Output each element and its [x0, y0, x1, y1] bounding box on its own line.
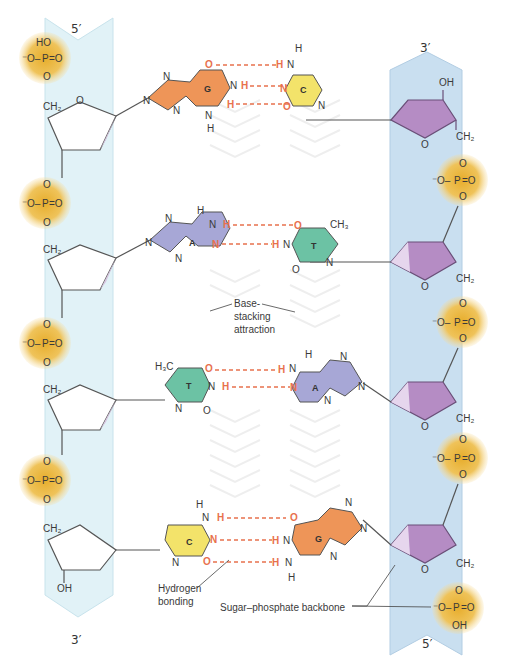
svg-text:H: H: [196, 499, 203, 510]
base-stacking-ghost-lines: [210, 100, 340, 497]
svg-text:H: H: [227, 99, 234, 110]
svg-text:N: N: [324, 395, 331, 406]
svg-text:A: A: [312, 383, 319, 393]
svg-text:N: N: [175, 403, 182, 414]
svg-text:N: N: [208, 381, 215, 392]
base-pair-c-g-4: C HN HN NO G O HN HNH NNN: [165, 497, 367, 583]
left-phosphate-1: HO ⁻O–P=O O: [19, 32, 71, 84]
svg-text:=O: =O: [461, 602, 475, 613]
svg-text:H: H: [272, 239, 279, 250]
svg-text:N: N: [175, 253, 182, 264]
svg-text:bonding: bonding: [158, 596, 194, 607]
svg-text:Base-: Base-: [234, 298, 260, 309]
svg-text:O: O: [76, 95, 84, 106]
svg-text:CH₂: CH₂: [456, 131, 474, 142]
svg-text:=O: =O: [49, 198, 63, 209]
dna-structure-diagram: 5′ 3′ 3′ 5′ HO ⁻O–P=O O O ⁻O–P=O O O ⁻O–…: [0, 0, 507, 667]
svg-text:N: N: [283, 535, 290, 546]
base-pair-g-c-1: G NNN NH ON HH C HNH NO N: [143, 43, 325, 134]
svg-text:O: O: [459, 333, 467, 344]
svg-text:O: O: [421, 564, 429, 575]
svg-text:O: O: [421, 421, 429, 432]
svg-text:N: N: [143, 95, 150, 106]
svg-text:=O: =O: [462, 175, 476, 186]
svg-text:N: N: [360, 523, 367, 534]
svg-text:N: N: [285, 557, 292, 568]
left-phosphate-2: O ⁻O–P=O O: [19, 177, 71, 229]
left-3prime-oh: OH: [57, 583, 72, 594]
svg-text:O: O: [283, 101, 291, 112]
svg-text:O: O: [205, 59, 213, 70]
svg-text:T: T: [186, 381, 192, 391]
svg-text:O: O: [294, 220, 302, 231]
svg-text:N: N: [205, 110, 212, 121]
svg-text:O: O: [43, 357, 51, 368]
svg-text:Sugar–phosphate backbone: Sugar–phosphate backbone: [220, 602, 346, 613]
svg-text:N: N: [210, 534, 217, 545]
left-phosphate-4: O ⁻O–P=O O: [19, 454, 71, 506]
svg-text:N: N: [209, 219, 216, 230]
svg-text:H: H: [272, 535, 279, 546]
svg-text:O: O: [459, 434, 467, 445]
svg-text:P: P: [453, 602, 460, 613]
svg-text:O: O: [203, 405, 211, 416]
svg-text:⁻O–: ⁻O–: [22, 53, 41, 64]
svg-text:⁻O–: ⁻O–: [432, 317, 451, 328]
svg-text:C: C: [186, 537, 193, 547]
svg-text:N: N: [163, 71, 170, 82]
svg-text:N: N: [345, 497, 352, 508]
svg-text:=O: =O: [49, 475, 63, 486]
svg-text:=O: =O: [462, 317, 476, 328]
base-pair-t-a-3: T H₃C ON HNO A HNH NN NN: [155, 349, 365, 416]
svg-text:H: H: [288, 572, 295, 583]
svg-text:O: O: [292, 264, 300, 275]
svg-text:stacking: stacking: [234, 311, 271, 322]
right-3prime-label: 3′: [420, 41, 431, 55]
svg-text:H: H: [276, 59, 283, 70]
svg-text:OH: OH: [452, 620, 467, 631]
svg-text:N: N: [280, 83, 287, 94]
svg-text:H: H: [222, 381, 229, 392]
svg-text:H: H: [272, 557, 279, 568]
hydrogen-bonding-annotation: Hydrogen bonding: [158, 560, 229, 607]
svg-text:⁻O–: ⁻O–: [432, 175, 451, 186]
svg-text:CH₂: CH₂: [43, 523, 61, 534]
base-pair-a-t-2: A NNN HN HN T OCH₃ HN ON: [145, 205, 349, 275]
svg-text:N: N: [289, 363, 296, 374]
svg-text:H: H: [295, 43, 302, 54]
svg-text:G: G: [204, 84, 211, 94]
svg-text:N: N: [230, 80, 237, 91]
svg-text:P: P: [42, 53, 49, 64]
svg-text:O: O: [459, 469, 467, 480]
svg-text:HO: HO: [36, 37, 51, 48]
svg-text:P: P: [454, 453, 461, 464]
svg-text:OH: OH: [439, 77, 454, 88]
svg-text:H: H: [197, 205, 204, 216]
svg-text:N: N: [326, 257, 333, 268]
svg-text:H: H: [217, 512, 224, 523]
svg-text:O: O: [459, 298, 467, 309]
svg-text:N: N: [340, 351, 347, 362]
svg-text:CH₂: CH₂: [456, 413, 474, 424]
svg-text:CH₂: CH₂: [456, 558, 474, 569]
svg-text:O: O: [203, 556, 211, 567]
svg-text:O: O: [459, 191, 467, 202]
svg-text:⁻O–: ⁻O–: [22, 198, 41, 209]
svg-text:N: N: [202, 512, 209, 523]
svg-text:=O: =O: [49, 53, 63, 64]
svg-text:⁻O–: ⁻O–: [22, 338, 41, 349]
svg-text:=O: =O: [462, 453, 476, 464]
right-phosphate-4: O ⁻O–P=O OH: [432, 582, 484, 634]
svg-text:O: O: [43, 319, 51, 330]
svg-text:⁻O–: ⁻O–: [22, 475, 41, 486]
svg-text:H: H: [278, 364, 285, 375]
svg-text:CH₃: CH₃: [330, 219, 349, 230]
svg-text:O: O: [455, 585, 463, 596]
svg-text:N: N: [358, 381, 365, 392]
svg-text:=O: =O: [49, 338, 63, 349]
svg-text:O: O: [43, 71, 51, 82]
svg-text:O: O: [421, 139, 429, 150]
svg-text:A: A: [189, 238, 196, 248]
base-stacking-annotation: Base- stacking attraction: [210, 298, 295, 335]
svg-text:O: O: [421, 281, 429, 292]
